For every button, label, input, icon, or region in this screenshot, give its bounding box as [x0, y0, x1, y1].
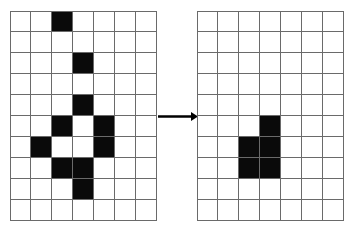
grid-cell-empty [52, 74, 73, 95]
grid-cell-empty [52, 95, 73, 116]
left-grid [10, 11, 158, 222]
grid-cell-empty [136, 11, 157, 32]
grid-cell-empty [302, 53, 323, 74]
grid-cell-empty [260, 32, 281, 53]
grid-cell-empty [31, 158, 52, 179]
grid-cell-empty [52, 179, 73, 200]
grid-cell-empty [239, 179, 260, 200]
grid-cell-empty [260, 74, 281, 95]
grid-cell-empty [94, 95, 115, 116]
grid-cell-empty [115, 179, 136, 200]
grid-cell-empty [197, 179, 218, 200]
grid-cell-empty [10, 53, 31, 74]
grid-cell-empty [302, 74, 323, 95]
grid-cell-filled [260, 137, 281, 158]
grid-cell-empty [260, 179, 281, 200]
grid-cell-filled [239, 137, 260, 158]
grid-cell-empty [136, 137, 157, 158]
grid-cell-empty [136, 32, 157, 53]
grid-cell-empty [10, 95, 31, 116]
grid-cell-empty [302, 95, 323, 116]
grid-cell-empty [73, 32, 94, 53]
grid-cell-empty [10, 179, 31, 200]
grid-cell-empty [31, 11, 52, 32]
grid-cell-empty [115, 116, 136, 137]
grid-cell-empty [239, 53, 260, 74]
grid-cell-empty [136, 200, 157, 221]
grid-cell-filled [52, 116, 73, 137]
grid-cell-empty [136, 95, 157, 116]
grid-cell-empty [115, 137, 136, 158]
grid-cell-empty [115, 158, 136, 179]
grid-cell-filled [73, 179, 94, 200]
grid-cell-empty [136, 179, 157, 200]
grid-cell-empty [31, 179, 52, 200]
grid-cell-filled [73, 158, 94, 179]
grid-cell-empty [31, 116, 52, 137]
grid-cell-empty [115, 95, 136, 116]
grid-cell-filled [260, 116, 281, 137]
grid-cell-empty [197, 158, 218, 179]
grid-cell-empty [94, 11, 115, 32]
grid-cell-empty [52, 32, 73, 53]
grid-cell-empty [302, 11, 323, 32]
grid-cell-filled [260, 158, 281, 179]
grid-cell-empty [197, 137, 218, 158]
grid-cell-empty [323, 11, 344, 32]
grid-cell-empty [52, 137, 73, 158]
grid-cell-empty [323, 53, 344, 74]
right-grid [197, 11, 345, 222]
grid-cell-empty [239, 116, 260, 137]
grid-cell-empty [52, 200, 73, 221]
grid-cell-empty [281, 116, 302, 137]
grid-cell-filled [94, 137, 115, 158]
grid-cell-filled [31, 137, 52, 158]
grid-cell-empty [281, 53, 302, 74]
grid-cell-empty [281, 179, 302, 200]
grid-cell-empty [31, 74, 52, 95]
grid-cell-empty [136, 116, 157, 137]
grid-cell-filled [94, 116, 115, 137]
grid-cell-empty [260, 53, 281, 74]
grid-cell-filled [52, 11, 73, 32]
grid-cell-empty [239, 32, 260, 53]
grid-cell-empty [197, 116, 218, 137]
grid-cell-empty [218, 158, 239, 179]
grid-cell-empty [302, 158, 323, 179]
grid-cell-empty [73, 200, 94, 221]
grid-cell-empty [302, 137, 323, 158]
grid-cell-empty [115, 11, 136, 32]
grid-cell-empty [260, 95, 281, 116]
grid-cell-empty [323, 200, 344, 221]
grid-cell-empty [31, 95, 52, 116]
grid-cell-empty [94, 200, 115, 221]
grid-cell-empty [136, 74, 157, 95]
grid-cell-empty [239, 74, 260, 95]
grid-cell-empty [239, 200, 260, 221]
grid-cell-empty [94, 179, 115, 200]
grid-cell-empty [94, 74, 115, 95]
grid-cell-empty [94, 53, 115, 74]
grid-cell-empty [239, 11, 260, 32]
grid-cell-empty [323, 74, 344, 95]
grid-cell-empty [115, 200, 136, 221]
grid-cell-empty [302, 116, 323, 137]
transformation-arrow [158, 110, 198, 123]
grid-cell-empty [281, 74, 302, 95]
grid-cell-empty [197, 53, 218, 74]
grid-cell-empty [302, 32, 323, 53]
grid-cell-empty [115, 53, 136, 74]
grid-cell-empty [73, 74, 94, 95]
grid-cell-empty [281, 137, 302, 158]
grid-cell-empty [10, 74, 31, 95]
grid-cell-empty [218, 137, 239, 158]
grid-cell-empty [323, 32, 344, 53]
grid-cell-empty [260, 200, 281, 221]
grid-cell-filled [73, 95, 94, 116]
grid-cell-empty [218, 11, 239, 32]
grid-cell-empty [323, 137, 344, 158]
grid-cell-empty [218, 95, 239, 116]
grid-cell-empty [197, 74, 218, 95]
grid-cell-empty [136, 158, 157, 179]
grid-cell-filled [73, 53, 94, 74]
